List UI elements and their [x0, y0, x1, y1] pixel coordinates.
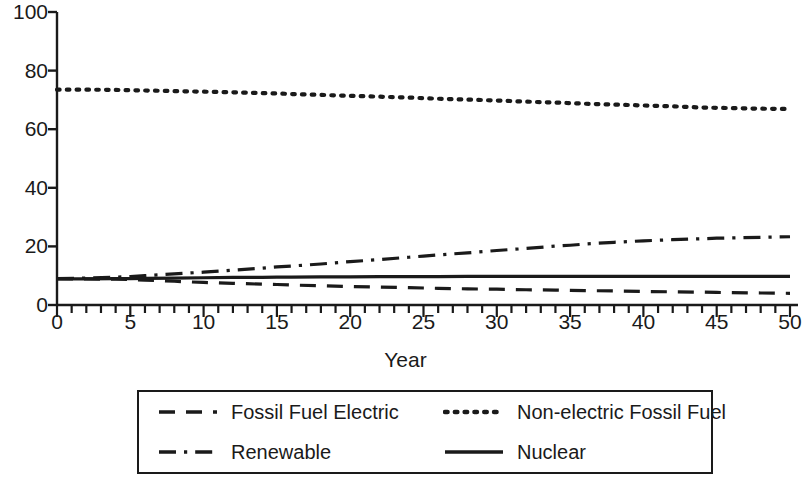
x-axis-tick-label: 20 [320, 310, 380, 334]
plot-canvas [0, 0, 811, 318]
x-axis-tick-labels: 05101520253035404550 [0, 310, 811, 344]
series-line-non-electric-fossil-fuel [57, 90, 790, 109]
legend-line-sample-icon [157, 444, 219, 460]
y-axis-tick-label: 80 [2, 60, 48, 81]
legend-item-label: Renewable [231, 441, 331, 463]
legend-line-sample-icon [443, 404, 505, 420]
x-axis-tick-label: 15 [247, 310, 307, 334]
x-axis-tick-label: 0 [27, 310, 87, 334]
series-line-renewable [57, 237, 790, 279]
x-axis-tick-label: 35 [540, 310, 600, 334]
y-axis-tick-label: 60 [2, 118, 48, 139]
x-axis-tick-label: 30 [467, 310, 527, 334]
line-chart-figure: 020406080100 05101520253035404550 Year F… [0, 0, 811, 478]
x-axis-tick-label: 10 [174, 310, 234, 334]
x-axis-tick-label: 45 [687, 310, 747, 334]
series-line-nuclear [57, 276, 790, 279]
legend-item-label: Non-electric Fossil Fuel [517, 401, 726, 423]
x-axis-tick-label: 25 [394, 310, 454, 334]
y-axis-tick-labels: 020406080100 [0, 0, 48, 318]
y-axis-tick-label: 20 [2, 235, 48, 256]
x-axis-tick-label: 5 [100, 310, 160, 334]
series-line-fossil-fuel-electric [57, 279, 790, 294]
legend: Fossil Fuel ElectricNon-electric Fossil … [137, 390, 713, 474]
legend-item: Renewable [139, 432, 425, 472]
x-axis-tick-label: 50 [760, 310, 811, 334]
y-axis-tick-label: 40 [2, 177, 48, 198]
y-axis-tick-label: 100 [2, 1, 48, 22]
x-axis-tick-label: 40 [613, 310, 673, 334]
legend-item: Non-electric Fossil Fuel [425, 392, 711, 432]
legend-item: Nuclear [425, 432, 711, 472]
legend-item-label: Nuclear [517, 441, 586, 463]
x-axis-title: Year [0, 348, 811, 372]
legend-item: Fossil Fuel Electric [139, 392, 425, 432]
legend-item-label: Fossil Fuel Electric [231, 401, 399, 423]
plot-area: 020406080100 [0, 0, 811, 318]
legend-line-sample-icon [443, 444, 505, 460]
legend-line-sample-icon [157, 404, 219, 420]
